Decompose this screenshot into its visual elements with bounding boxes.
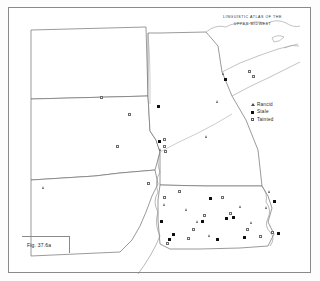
map-point-filled-square bbox=[201, 220, 204, 223]
lake-superior-south-shore bbox=[232, 62, 300, 96]
map-point-open-square bbox=[187, 237, 190, 240]
map-point-filled-square bbox=[224, 78, 227, 81]
map-point-triangle bbox=[250, 221, 252, 224]
legend-item-tainted: Tainted bbox=[248, 116, 274, 123]
open-square-icon bbox=[248, 118, 257, 121]
map-point-open-square bbox=[163, 138, 166, 141]
triangle-icon bbox=[248, 103, 257, 106]
map-point-open-square bbox=[164, 150, 167, 153]
map-point-filled-square bbox=[232, 216, 235, 219]
figure-caption-box: Fig. 37.6a bbox=[22, 236, 70, 253]
map-point-filled-square bbox=[243, 236, 246, 239]
map-point-open-square bbox=[178, 190, 181, 193]
map-point-open-square bbox=[166, 242, 169, 245]
map-point-triangle bbox=[265, 206, 267, 209]
map-point-triangle bbox=[216, 100, 218, 103]
map-point-filled-square bbox=[225, 217, 228, 220]
map-point-open-square bbox=[259, 235, 262, 238]
map-point-triangle bbox=[208, 234, 210, 237]
state-minnesota bbox=[148, 32, 262, 186]
map-point-filled-square bbox=[209, 197, 212, 200]
map-point-triangle bbox=[159, 148, 161, 151]
map-point-triangle bbox=[222, 72, 224, 75]
legend-item-stale: Stale bbox=[248, 108, 274, 115]
map-point-open-square bbox=[163, 145, 166, 148]
map-point-filled-square bbox=[277, 232, 280, 235]
map-point-open-square bbox=[229, 212, 232, 215]
state-north-dakota bbox=[31, 27, 148, 99]
map-point-open-square bbox=[147, 182, 150, 185]
map-point-open-square bbox=[246, 228, 249, 231]
state-south-dakota bbox=[31, 96, 160, 180]
map-point-open-square bbox=[248, 70, 251, 73]
map-point-open-square bbox=[252, 75, 255, 78]
legend-label-tainted: Tainted bbox=[257, 116, 274, 123]
map-point-triangle bbox=[163, 203, 165, 206]
map-point-triangle bbox=[196, 220, 198, 223]
map-point-triangle bbox=[42, 186, 44, 189]
map-point-filled-square bbox=[172, 233, 175, 236]
map-point-open-square bbox=[163, 196, 166, 199]
map-point-filled-square bbox=[168, 238, 171, 241]
map-legend: Rancid Stale Tainted bbox=[248, 101, 274, 123]
map-point-filled-square bbox=[158, 140, 161, 143]
filled-square-icon bbox=[248, 111, 257, 114]
map-page: LINGUISTIC ATLAS OF THE UPPER MIDWEST Ra… bbox=[0, 0, 320, 281]
map-point-triangle bbox=[268, 190, 270, 193]
lake-superior-body bbox=[222, 44, 298, 72]
legend-item-rancid: Rancid bbox=[248, 101, 274, 108]
map-point-filled-square bbox=[160, 220, 163, 223]
map-point-filled-square bbox=[157, 105, 160, 108]
map-point-open-square bbox=[100, 96, 103, 99]
map-title-line-2: UPPER MIDWEST bbox=[205, 21, 300, 28]
map-point-open-square bbox=[128, 113, 131, 116]
figure-caption-text: Fig. 37.6a bbox=[27, 242, 51, 248]
legend-label-rancid: Rancid bbox=[257, 101, 273, 108]
map-point-triangle bbox=[205, 135, 207, 138]
map-point-open-square bbox=[203, 214, 206, 217]
map-title: LINGUISTIC ATLAS OF THE UPPER MIDWEST bbox=[205, 14, 300, 27]
map-point-triangle bbox=[239, 205, 241, 208]
map-point-filled-square bbox=[216, 238, 219, 241]
map-point-triangle bbox=[185, 208, 187, 211]
keweenaw-peninsula bbox=[284, 45, 299, 48]
map-point-open-square bbox=[116, 145, 119, 148]
legend-label-stale: Stale bbox=[257, 108, 269, 115]
isle-royale-outline bbox=[272, 36, 284, 42]
map-point-filled-square bbox=[273, 200, 276, 203]
lower-missouri-river bbox=[138, 256, 150, 274]
map-point-open-square bbox=[221, 196, 224, 199]
map-point-open-square bbox=[271, 231, 274, 234]
map-point-open-square bbox=[192, 228, 195, 231]
